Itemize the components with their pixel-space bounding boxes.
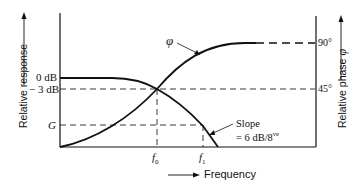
tick-f1: f1 (199, 152, 206, 166)
x-axis-label: Frequency (204, 169, 256, 180)
left-axis-arrow-icon (22, 12, 27, 19)
frequency-arrow-icon (193, 173, 200, 178)
amplitude-response-curve (60, 78, 218, 147)
slope-label-line2: = 6 dB/8ve (236, 131, 279, 143)
slope-label-line1: Slope (236, 119, 260, 130)
tick-f0: f0 (152, 152, 159, 166)
tick-90deg: 90° (318, 38, 332, 48)
right-axis-arrow-icon (339, 15, 344, 22)
diagram-canvas (0, 0, 357, 190)
phase-curve-label: φ (166, 34, 173, 47)
right-axis-label: Relative phase φ (335, 49, 350, 128)
tick-minus3db: − 3 dB (29, 84, 59, 95)
left-axis-label: Relative response (17, 44, 29, 128)
tick-g: G (48, 120, 56, 131)
tick-0db: 0 dB (36, 72, 57, 83)
phase-curve (60, 43, 256, 147)
tick-45deg: 45° (318, 84, 332, 94)
